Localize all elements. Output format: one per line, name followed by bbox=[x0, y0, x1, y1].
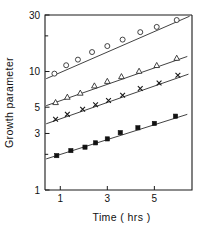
point-series-4-filled-square-2 bbox=[83, 145, 87, 149]
point-series-2-open-triangle-8 bbox=[174, 55, 180, 60]
point-series-4-filled-square-1 bbox=[69, 149, 73, 153]
point-series-1-open-circle-7 bbox=[154, 24, 159, 29]
chart-figure: 1351030 135 Time ( hrs ) Growth paramete… bbox=[0, 0, 203, 233]
markers-series-1-open-circle bbox=[52, 18, 179, 77]
fit-line-series-1-open-circle bbox=[46, 16, 189, 78]
axes-frame-path bbox=[45, 15, 192, 190]
point-series-1-open-circle-1 bbox=[64, 63, 69, 68]
y-tick-label-3: 3 bbox=[34, 128, 40, 139]
x-axis-title: Time ( hrs ) bbox=[92, 211, 150, 223]
x-axis-tick-labels: 135 bbox=[58, 193, 158, 204]
point-series-1-open-circle-2 bbox=[75, 57, 80, 62]
x-tick-label-1: 1 bbox=[58, 193, 64, 204]
point-series-1-open-circle-6 bbox=[138, 30, 143, 35]
point-series-1-open-circle-5 bbox=[120, 37, 125, 42]
point-series-1-open-circle-8 bbox=[174, 18, 179, 23]
semilog-scatter-plot: 1351030 135 Time ( hrs ) Growth paramete… bbox=[0, 0, 203, 233]
point-series-2-open-triangle-5 bbox=[119, 74, 125, 79]
series-fit-lines bbox=[46, 16, 189, 159]
point-series-4-filled-square-0 bbox=[55, 154, 59, 158]
point-series-4-filled-square-4 bbox=[105, 137, 109, 141]
point-series-1-open-circle-3 bbox=[90, 50, 95, 55]
point-series-2-open-triangle-3 bbox=[92, 83, 98, 88]
y-tick-label-5: 5 bbox=[34, 102, 40, 113]
point-series-2-open-triangle-6 bbox=[136, 68, 142, 73]
y-tick-label-30: 30 bbox=[29, 10, 41, 21]
point-series-4-filled-square-8 bbox=[173, 114, 177, 118]
markers-series-4-filled-square bbox=[55, 114, 178, 158]
y-axis-ticks bbox=[45, 15, 50, 190]
point-series-4-filled-square-3 bbox=[93, 141, 97, 145]
x-tick-label-3: 3 bbox=[105, 193, 111, 204]
y-axis-tick-labels: 1351030 bbox=[29, 10, 41, 196]
x-axis-ticks bbox=[60, 186, 154, 190]
y-tick-label-1: 1 bbox=[34, 185, 40, 196]
x-tick-label-5: 5 bbox=[152, 193, 158, 204]
fit-line-series-4-filled-square bbox=[46, 114, 187, 159]
plot-frame bbox=[45, 15, 192, 190]
point-series-1-open-circle-0 bbox=[52, 71, 57, 76]
point-series-4-filled-square-7 bbox=[152, 121, 156, 125]
point-series-2-open-triangle-1 bbox=[65, 94, 71, 99]
point-series-2-open-triangle-7 bbox=[154, 62, 160, 67]
point-series-2-open-triangle-4 bbox=[105, 78, 111, 83]
point-series-3-cross-0 bbox=[53, 117, 58, 122]
y-axis-title: Growth parameter bbox=[3, 57, 15, 148]
point-series-1-open-circle-4 bbox=[105, 44, 110, 49]
point-series-4-filled-square-5 bbox=[118, 131, 122, 135]
point-series-4-filled-square-6 bbox=[136, 126, 140, 130]
y-tick-label-10: 10 bbox=[29, 66, 41, 77]
point-series-3-cross-6 bbox=[138, 86, 143, 91]
point-series-3-cross-8 bbox=[175, 73, 180, 78]
